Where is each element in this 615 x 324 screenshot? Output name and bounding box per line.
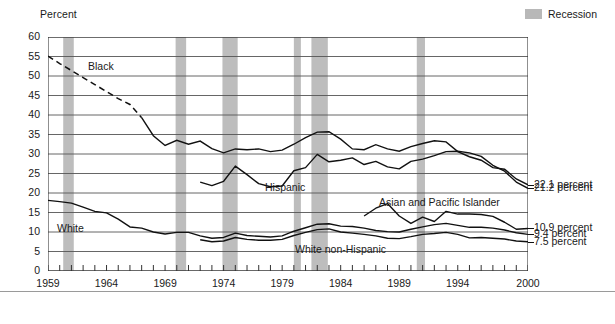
x-tick-label: 1974 <box>204 277 244 289</box>
x-tick-label: 1969 <box>145 277 185 289</box>
y-tick-label: 25 <box>18 167 40 179</box>
y-axis-title: Percent <box>40 8 77 20</box>
figure-container: Percent Recession 0510152025303540455055… <box>0 0 615 324</box>
series-label-white-non-hispanic: White non-Hispanic <box>295 243 386 255</box>
series-label-black: Black <box>88 60 114 72</box>
series-label-white: White <box>57 222 84 234</box>
y-tick-label: 40 <box>18 108 40 120</box>
caption-divider <box>0 291 615 292</box>
y-tick-label: 55 <box>18 50 40 62</box>
end-value-label: 21.2 percent <box>534 181 592 193</box>
y-tick-label: 20 <box>18 186 40 198</box>
y-tick-label: 50 <box>18 69 40 81</box>
series-line-hispanic <box>200 151 528 188</box>
x-tick-label: 1959 <box>28 277 68 289</box>
x-tick-label: 1964 <box>87 277 127 289</box>
y-tick-label: 30 <box>18 147 40 159</box>
end-label-leader <box>528 242 534 243</box>
series-label-hispanic: Hispanic <box>265 181 305 193</box>
y-tick-label: 5 <box>18 245 40 257</box>
y-tick-label: 60 <box>18 30 40 42</box>
y-tick-label: 15 <box>18 206 40 218</box>
plot-area <box>48 37 528 271</box>
caption-bar: FIGURE 2.5 Poverty rates by race and His… <box>0 296 615 324</box>
y-tick-label: 10 <box>18 225 40 237</box>
line-chart-svg <box>48 37 528 271</box>
end-value-label: 7.5 percent <box>534 235 587 247</box>
y-tick-label: 35 <box>18 128 40 140</box>
legend: Recession <box>525 8 597 20</box>
x-tick-label: 1979 <box>262 277 302 289</box>
recession-swatch-icon <box>525 9 542 19</box>
series-line-black <box>142 118 528 185</box>
x-tick-label: 1994 <box>438 277 478 289</box>
end-label-leader <box>528 188 534 189</box>
x-tick-label: 1984 <box>321 277 361 289</box>
legend-label-recession: Recession <box>548 8 597 20</box>
y-tick-label: 45 <box>18 89 40 101</box>
x-tick-label: 1989 <box>379 277 419 289</box>
y-tick-label: 0 <box>18 264 40 276</box>
x-tick-label: 2000 <box>508 277 548 289</box>
series-label-asian: Asian and Pacific Islander <box>379 196 500 208</box>
